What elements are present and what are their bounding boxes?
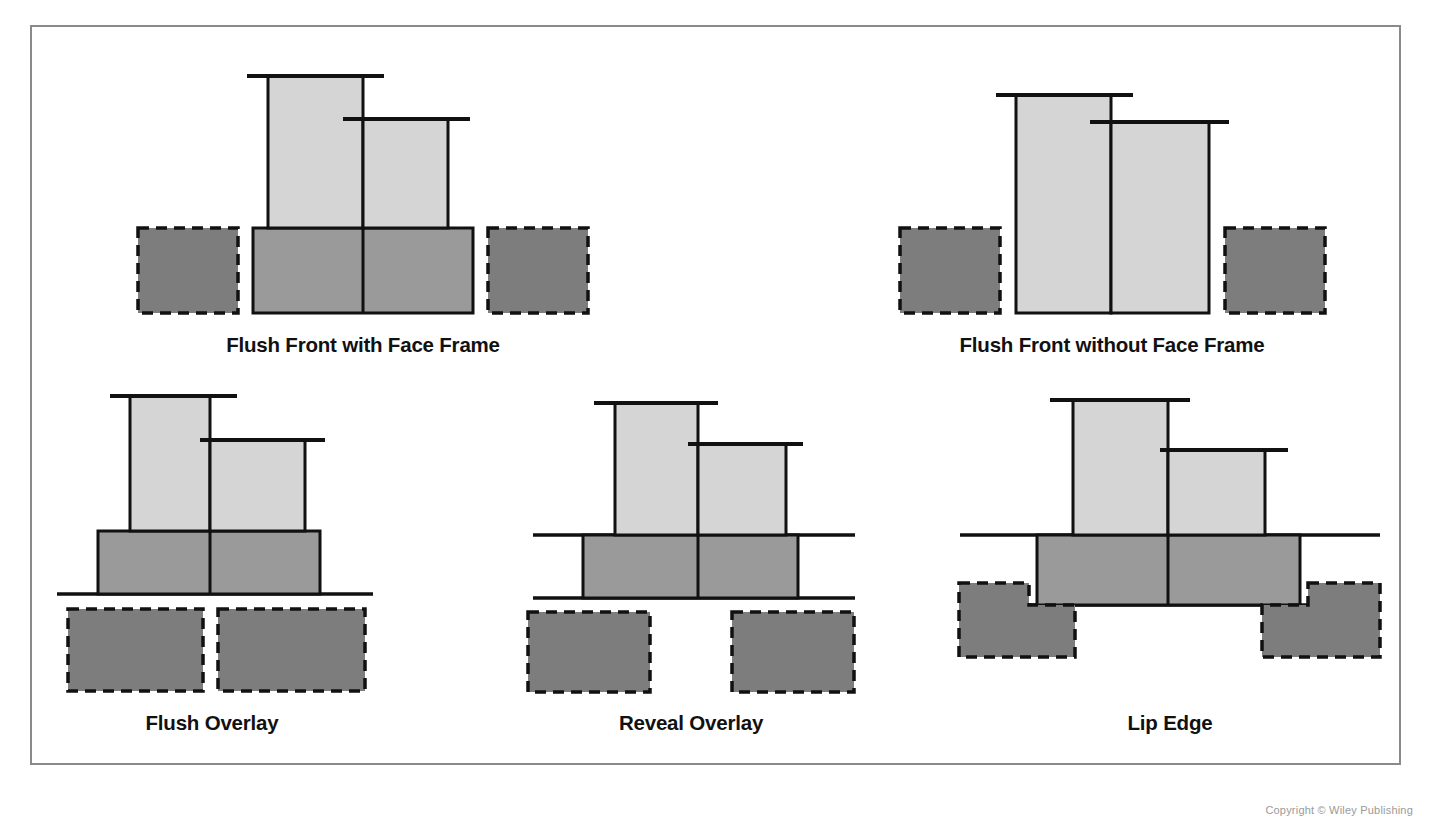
door-panel-right bbox=[1168, 450, 1265, 535]
door-panel-right bbox=[1111, 122, 1209, 313]
door-panel-left bbox=[268, 76, 363, 228]
diagram-reveal-overlay: Reveal Overlay bbox=[528, 403, 855, 734]
door-panel-left bbox=[1073, 400, 1168, 535]
door-panel-left bbox=[1016, 95, 1111, 313]
label-flush-front-without-face-frame: Flush Front without Face Frame bbox=[960, 333, 1265, 356]
door-panel-right bbox=[363, 119, 448, 228]
label-lip-edge: Lip Edge bbox=[1128, 711, 1213, 734]
door-panel-left bbox=[130, 396, 210, 531]
label-flush-front-with-face-frame: Flush Front with Face Frame bbox=[226, 333, 500, 356]
door-panel-right bbox=[698, 444, 786, 535]
cabinet-side-left-dashed bbox=[900, 228, 1000, 313]
diagram-flush-front-without-face-frame: Flush Front without Face Frame bbox=[900, 95, 1325, 356]
label-flush-overlay: Flush Overlay bbox=[146, 711, 280, 734]
cabinet-member-right-dashed bbox=[732, 612, 854, 692]
cabinet-member-left-dashed bbox=[528, 612, 650, 692]
cabinet-member-right-dashed bbox=[218, 609, 365, 691]
label-reveal-overlay: Reveal Overlay bbox=[619, 711, 764, 734]
cabinet-member-left-dashed bbox=[68, 609, 203, 691]
cabinet-side-right-dashed bbox=[1225, 228, 1325, 313]
diagram-flush-overlay: Flush Overlay bbox=[57, 396, 373, 734]
diagram-lip-edge: Lip Edge bbox=[959, 400, 1380, 734]
door-panel-left bbox=[615, 403, 698, 535]
publisher-credit: Copyright © Wiley Publishing bbox=[1265, 804, 1413, 816]
door-panel-right bbox=[210, 440, 305, 531]
face-frame-right-dashed bbox=[488, 228, 588, 313]
face-frame-left-dashed bbox=[138, 228, 238, 313]
diagram-flush-front-with-face-frame: Flush Front with Face Frame bbox=[138, 76, 588, 356]
overlay-block bbox=[583, 535, 798, 598]
